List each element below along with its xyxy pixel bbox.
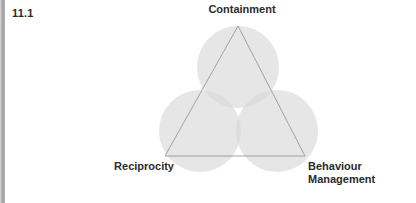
- figure-canvas: 11.1 Containment Reciprocity Behaviour M…: [0, 0, 416, 203]
- label-reciprocity: Reciprocity: [78, 160, 174, 173]
- label-containment: Containment: [192, 3, 292, 16]
- venn-triangle-diagram: Containment Reciprocity Behaviour Manage…: [0, 0, 416, 203]
- label-behaviour-management: Behaviour Management: [308, 160, 412, 186]
